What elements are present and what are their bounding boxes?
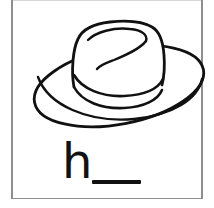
hat-icon bbox=[30, 13, 208, 135]
prompt-letter-h: h bbox=[62, 137, 92, 185]
hat-crown-shape bbox=[73, 21, 165, 87]
page-border-bottom bbox=[11, 198, 202, 200]
worksheet-page: h bbox=[0, 0, 214, 208]
letter-prompt: h bbox=[12, 139, 201, 189]
worksheet-content: h bbox=[12, 1, 201, 197]
write-in-blank-line[interactable] bbox=[92, 180, 141, 184]
